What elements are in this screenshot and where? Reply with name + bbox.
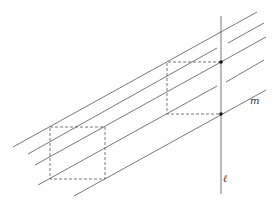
parallel-line-4-right (226, 60, 264, 82)
line-m (74, 90, 266, 196)
label-l: ℓ (223, 173, 227, 184)
label-m: m (250, 95, 259, 106)
intersection-point-upper (219, 60, 223, 64)
parallel-line-3 (35, 37, 266, 165)
diagram: m ℓ (0, 0, 279, 204)
parallel-line-2-right (228, 23, 264, 43)
parallel-line-4-left (38, 86, 217, 185)
intersection-point-lower (219, 112, 223, 116)
dashed-box-left (50, 127, 105, 179)
parallel-line-1 (13, 12, 257, 147)
